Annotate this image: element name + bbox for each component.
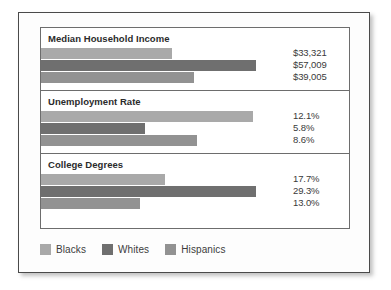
bar-value-label: 12.1% xyxy=(293,110,319,122)
bar-group: 17.7%29.3%13.0% xyxy=(41,174,349,209)
bar-row: 17.7% xyxy=(41,174,349,185)
bar-value-label: 5.8% xyxy=(293,122,314,134)
bar-row: 29.3% xyxy=(41,186,349,197)
bar-row: 8.6% xyxy=(41,135,349,146)
bar-value-label: 17.7% xyxy=(293,173,319,185)
section-title: Unemployment Rate xyxy=(41,91,349,111)
legend-swatch-icon xyxy=(102,244,113,255)
section-spacer xyxy=(41,209,349,216)
section-title: College Degrees xyxy=(41,154,349,174)
bar-value-label: $33,321 xyxy=(293,47,327,59)
bar-whites xyxy=(41,186,256,197)
bar-value-label: $57,009 xyxy=(293,59,327,71)
bar-row: $33,321 xyxy=(41,48,349,59)
chart-panel: Median Household Income$33,321$57,009$39… xyxy=(40,27,350,229)
legend-label: Whites xyxy=(118,244,149,255)
bar-group: 12.1%5.8%8.6% xyxy=(41,111,349,146)
figure-root: Median Household Income$33,321$57,009$39… xyxy=(0,0,391,290)
bar-value-label: $39,005 xyxy=(293,71,327,83)
chart-section: Unemployment Rate12.1%5.8%8.6% xyxy=(41,91,349,154)
bar-row: 5.8% xyxy=(41,123,349,134)
chart-section: Median Household Income$33,321$57,009$39… xyxy=(41,28,349,91)
bar-blacks xyxy=(41,48,172,59)
section-title: Median Household Income xyxy=(41,28,349,48)
legend-label: Hispanics xyxy=(181,244,225,255)
bar-row: $39,005 xyxy=(41,72,349,83)
bar-row: 12.1% xyxy=(41,111,349,122)
chart-legend: BlacksWhitesHispanics xyxy=(40,244,241,255)
legend-item-whites: Whites xyxy=(102,244,149,255)
bar-blacks xyxy=(41,174,165,185)
bar-whites xyxy=(41,60,256,71)
bar-hispanics xyxy=(41,72,194,83)
bar-value-label: 13.0% xyxy=(293,197,319,209)
legend-label: Blacks xyxy=(56,244,86,255)
bar-hispanics xyxy=(41,198,140,209)
bar-value-label: 8.6% xyxy=(293,134,314,146)
legend-item-blacks: Blacks xyxy=(40,244,86,255)
bar-hispanics xyxy=(41,135,197,146)
chart-section: College Degrees17.7%29.3%13.0% xyxy=(41,154,349,216)
bar-whites xyxy=(41,123,145,134)
legend-swatch-icon xyxy=(165,244,176,255)
bar-group: $33,321$57,009$39,005 xyxy=(41,48,349,83)
section-spacer xyxy=(41,83,349,90)
bar-row: $57,009 xyxy=(41,60,349,71)
section-spacer xyxy=(41,146,349,153)
bar-row: 13.0% xyxy=(41,198,349,209)
bar-value-label: 29.3% xyxy=(293,185,319,197)
legend-swatch-icon xyxy=(40,244,51,255)
legend-item-hispanics: Hispanics xyxy=(165,244,225,255)
bar-blacks xyxy=(41,111,253,122)
chart-outer-frame: Median Household Income$33,321$57,009$39… xyxy=(18,12,370,273)
